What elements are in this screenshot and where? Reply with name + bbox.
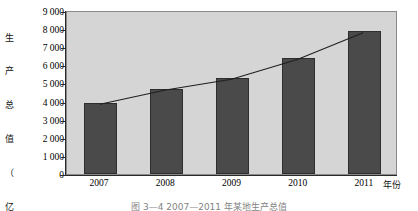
x-axis-tick-label: 2010	[268, 178, 328, 188]
chart-figure: 生 产 总 值 （ 亿 元 ） 01 0002 0003 0004 0005 0…	[0, 0, 418, 211]
x-axis-tick-labels: 20072008200920102011	[0, 0, 418, 211]
x-axis-tick-label: 2009	[202, 178, 262, 188]
figure-caption: 图 3—4 2007—2011 年某地生产总值	[131, 200, 287, 211]
x-axis-tick-label: 2007	[69, 178, 129, 188]
x-axis-title: 年份	[383, 178, 401, 191]
x-axis-tick-label: 2008	[135, 178, 195, 188]
